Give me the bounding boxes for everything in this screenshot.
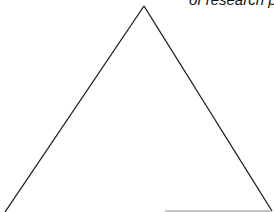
triangle-left-edge	[5, 6, 144, 212]
triangle-diagram	[0, 0, 274, 212]
triangle-right-edge	[144, 6, 272, 211]
